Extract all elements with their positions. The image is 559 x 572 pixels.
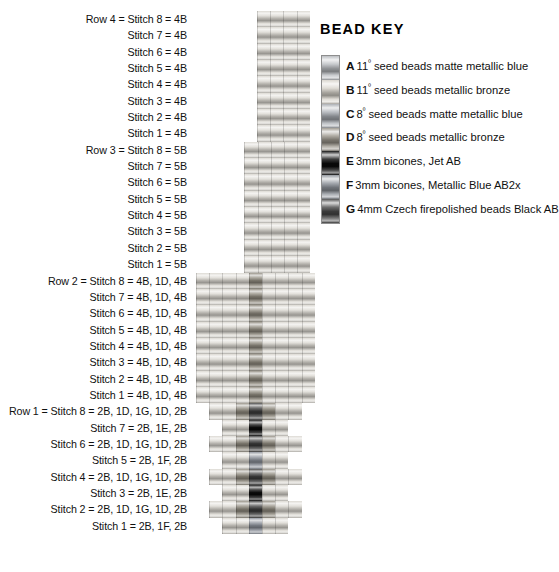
bead-cell [284, 158, 297, 174]
bead-cell [297, 109, 310, 125]
bead-cell [209, 387, 222, 403]
bead-cell [258, 207, 271, 223]
bead-cell [236, 387, 249, 403]
bead-key-letter: C [346, 107, 355, 121]
bead-key-description: 3mm bicones, Jet AB [356, 155, 461, 167]
bead-cell [209, 289, 222, 305]
bead-cell [283, 60, 296, 76]
bead-size: 11 [357, 84, 369, 96]
stitch-label: Stitch 2 = 5B [0, 240, 196, 256]
bead-cell [209, 436, 222, 452]
bead-cell [249, 289, 262, 305]
bead-cell [262, 403, 275, 419]
bead-cell [222, 354, 235, 370]
bead-key-item: B11º seed beads metallic bronze [346, 79, 536, 103]
bead-cell [258, 256, 271, 272]
bead-cell [270, 27, 283, 43]
bead-cell [249, 305, 262, 321]
bead-cell [196, 273, 209, 289]
bead-cell [236, 273, 249, 289]
bead-cell [222, 338, 235, 354]
bead-key-letter: F [346, 178, 353, 192]
bead-row [196, 158, 316, 174]
bead-cell [297, 158, 310, 174]
bead-cell [283, 125, 296, 141]
bead-cell [262, 371, 275, 387]
bead-cell [297, 76, 310, 92]
bead-cell [257, 76, 270, 92]
bead-cell [297, 191, 310, 207]
bead-cell [249, 322, 262, 338]
bead-cell [244, 207, 257, 223]
bead-row [196, 420, 316, 436]
bead-key-item: C8º seed beads matte metallic blue [346, 103, 536, 127]
stitch-label: Stitch 5 = 2B, 1F, 2B [0, 452, 196, 468]
bead-cell [275, 273, 288, 289]
bead-cell [284, 240, 297, 256]
bead-key-item: D8º seed beads metallic bronze [346, 126, 536, 150]
bead-row [196, 44, 316, 60]
bead-cell [275, 485, 288, 501]
bead-grid [196, 11, 316, 563]
bead-cell [258, 142, 271, 158]
bead-cell [236, 452, 249, 468]
bead-cell [275, 305, 288, 321]
bead-swatch-a [322, 56, 339, 80]
bead-cell [262, 354, 275, 370]
bead-cell [262, 322, 275, 338]
bead-cell [222, 436, 235, 452]
bead-cell [236, 305, 249, 321]
bead-cell [257, 125, 270, 141]
bead-cell [244, 191, 257, 207]
bead-cell [258, 240, 271, 256]
bead-cell [288, 371, 301, 387]
bead-cell [283, 27, 296, 43]
bead-cell [288, 273, 301, 289]
stitch-label: Stitch 1 = 4B, 1D, 4B [0, 387, 196, 403]
bead-row [196, 174, 316, 190]
bead-cell [271, 142, 284, 158]
bead-size: 11 [357, 60, 369, 72]
bead-cell [302, 354, 315, 370]
bead-cell [288, 305, 301, 321]
bead-cell [236, 322, 249, 338]
bead-cell [222, 403, 235, 419]
bead-cell [249, 469, 262, 485]
bead-cell [297, 125, 310, 141]
bead-cell [196, 387, 209, 403]
bead-row [196, 354, 316, 370]
stitch-label: Stitch 4 = 4B, 1D, 4B [0, 338, 196, 354]
stitch-label: Stitch 2 = 4B [0, 109, 196, 125]
stitch-label: Stitch 5 = 4B [0, 60, 196, 76]
bead-row [196, 207, 316, 223]
bead-cell [222, 322, 235, 338]
bead-cell [297, 256, 310, 272]
bead-cell [288, 436, 301, 452]
stitch-label: Stitch 1 = 4B [0, 125, 196, 141]
bead-cell [297, 174, 310, 190]
bead-row [196, 305, 316, 321]
bead-row [196, 27, 316, 43]
bead-row [196, 485, 316, 501]
bead-cell [222, 518, 235, 534]
bead-cell [288, 322, 301, 338]
bead-cell [209, 273, 222, 289]
stitch-label: Stitch 4 = 2B, 1D, 1G, 1D, 2B [0, 469, 196, 485]
stitch-label-column: Row 4 = Stitch 8 = 4BStitch 7 = 4BStitch… [0, 0, 196, 534]
bead-cell [209, 371, 222, 387]
bead-cell [297, 223, 310, 239]
bead-cell [284, 256, 297, 272]
bead-swatch-f [322, 175, 339, 199]
bead-cell [262, 338, 275, 354]
bead-cell [288, 354, 301, 370]
bead-cell [236, 420, 249, 436]
bead-cell [262, 420, 275, 436]
bead-cell [262, 452, 275, 468]
bead-cell [209, 322, 222, 338]
bead-cell [209, 338, 222, 354]
bead-key-item: A11º seed beads matte metallic blue [346, 55, 536, 79]
bead-swatch-b [322, 80, 339, 104]
bead-key-panel: BEAD KEY A11º seed beads matte metallic … [316, 0, 538, 572]
bead-cell [196, 305, 209, 321]
stitch-label: Stitch 6 = 2B, 1D, 1G, 1D, 2B [0, 436, 196, 452]
